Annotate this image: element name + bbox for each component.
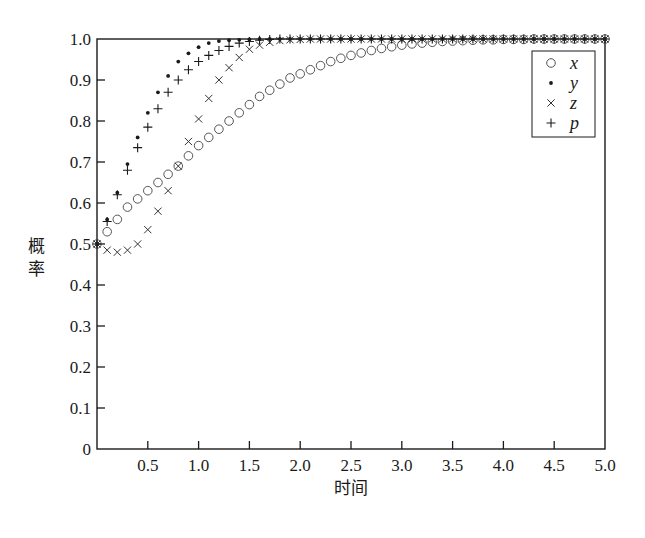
data-point bbox=[134, 240, 141, 247]
data-point bbox=[296, 70, 305, 79]
data-point bbox=[126, 162, 130, 166]
data-point bbox=[133, 195, 142, 204]
data-point bbox=[165, 187, 172, 194]
data-point bbox=[286, 74, 295, 83]
x-tick-label: 0.5 bbox=[137, 456, 158, 475]
data-point bbox=[236, 54, 243, 61]
data-point bbox=[377, 44, 386, 53]
data-point bbox=[225, 117, 234, 126]
y-tick-label: 0.1 bbox=[70, 399, 91, 418]
data-point bbox=[255, 92, 264, 101]
data-point bbox=[103, 227, 112, 236]
data-point bbox=[207, 41, 211, 45]
x-axis-ticks: 0.51.01.52.02.53.03.54.04.55.0 bbox=[137, 441, 615, 475]
data-point bbox=[195, 115, 202, 122]
data-point bbox=[246, 46, 253, 53]
data-point bbox=[164, 88, 173, 97]
legend-label-p: p bbox=[568, 113, 579, 133]
legend-marker-y bbox=[549, 81, 553, 85]
x-tick-label: 1.0 bbox=[188, 456, 209, 475]
y-tick-label: 0.8 bbox=[70, 112, 91, 131]
y-tick-label: 0.9 bbox=[70, 71, 91, 90]
data-point bbox=[235, 109, 244, 118]
data-point bbox=[153, 104, 162, 113]
data-point bbox=[187, 51, 191, 55]
y-tick-label: 0.4 bbox=[70, 276, 92, 295]
data-point bbox=[225, 42, 234, 51]
y-tick-label: 1.0 bbox=[70, 30, 91, 49]
data-point bbox=[144, 186, 153, 195]
data-point bbox=[214, 46, 223, 55]
data-point bbox=[204, 51, 213, 60]
y-axis-label-char2: 率 bbox=[28, 259, 45, 279]
data-point bbox=[225, 64, 232, 71]
data-point bbox=[215, 125, 224, 134]
x-tick-label: 3.5 bbox=[442, 456, 463, 475]
data-point bbox=[194, 141, 203, 150]
data-point bbox=[387, 42, 396, 51]
y-tick-label: 0.5 bbox=[70, 235, 91, 254]
x-tick-label: 5.0 bbox=[594, 456, 615, 475]
legend-label-y: y bbox=[568, 73, 578, 93]
data-point bbox=[103, 217, 112, 226]
legend-box bbox=[532, 51, 595, 137]
data-point bbox=[164, 170, 173, 179]
x-tick-label: 2.0 bbox=[290, 456, 311, 475]
x-tick-label: 3.0 bbox=[391, 456, 412, 475]
data-point bbox=[204, 133, 213, 142]
data-point bbox=[337, 54, 346, 63]
data-point bbox=[124, 247, 131, 254]
y-tick-label: 0.2 bbox=[70, 358, 91, 377]
data-point bbox=[133, 143, 142, 152]
x-tick-label: 1.5 bbox=[239, 456, 260, 475]
data-point bbox=[194, 57, 203, 66]
data-point bbox=[123, 166, 132, 175]
data-point bbox=[205, 95, 212, 102]
data-point bbox=[215, 76, 222, 83]
series-z bbox=[93, 35, 608, 255]
data-point bbox=[227, 38, 231, 42]
legend: xyzp bbox=[532, 51, 595, 137]
data-point bbox=[114, 249, 121, 256]
data-point bbox=[357, 49, 366, 58]
data-point bbox=[154, 208, 161, 215]
data-point bbox=[347, 51, 356, 60]
data-point bbox=[306, 65, 315, 74]
data-point bbox=[144, 226, 151, 233]
data-point bbox=[255, 36, 264, 45]
data-point bbox=[166, 74, 170, 78]
data-point bbox=[113, 190, 122, 199]
data-point bbox=[113, 215, 122, 224]
probability-chart: 00.10.20.30.40.50.60.70.80.91.0 0.51.01.… bbox=[0, 0, 645, 538]
data-point bbox=[276, 80, 285, 89]
data-point bbox=[185, 138, 192, 145]
data-point bbox=[154, 178, 163, 187]
y-tick-label: 0.6 bbox=[70, 194, 91, 213]
data-point bbox=[123, 203, 132, 212]
data-point bbox=[265, 86, 274, 95]
plot-frame bbox=[97, 39, 605, 449]
plot-axes bbox=[97, 39, 605, 449]
data-point bbox=[184, 152, 193, 161]
data-point bbox=[245, 100, 254, 109]
data-point bbox=[275, 35, 284, 44]
data-point bbox=[143, 123, 152, 132]
data-point bbox=[265, 35, 274, 44]
data-point bbox=[156, 90, 160, 94]
legend-label-z: z bbox=[569, 93, 577, 113]
x-axis-label: 时间 bbox=[334, 478, 368, 498]
data-point bbox=[104, 247, 111, 254]
data-point bbox=[146, 111, 150, 115]
legend-label-x: x bbox=[569, 53, 578, 73]
data-point bbox=[235, 39, 244, 48]
data-point bbox=[286, 35, 295, 44]
data-point bbox=[174, 76, 183, 85]
y-axis-label-char1: 概 bbox=[28, 236, 45, 256]
data-point bbox=[316, 61, 325, 70]
data-point bbox=[367, 46, 376, 55]
series-y bbox=[95, 37, 607, 246]
x-tick-label: 4.5 bbox=[544, 456, 565, 475]
data-point bbox=[176, 60, 180, 64]
data-point bbox=[326, 57, 335, 66]
data-point bbox=[136, 136, 140, 140]
